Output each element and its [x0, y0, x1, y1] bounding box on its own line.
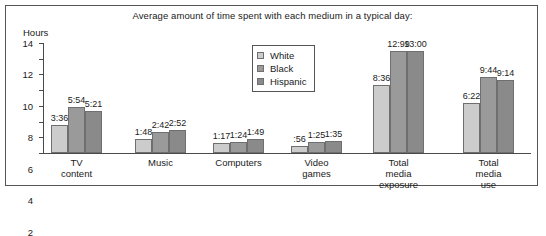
bar[interactable]	[463, 103, 480, 153]
bar-value-label: 3:36	[51, 114, 69, 123]
bar-value-label: 1:48	[135, 128, 153, 137]
legend-label: White	[270, 51, 294, 60]
legend-swatch-icon	[257, 78, 264, 85]
x-axis-category-label: Computers	[215, 157, 261, 168]
y-tick-label: 8	[28, 133, 33, 142]
legend-swatch-icon	[257, 65, 264, 72]
bar[interactable]	[291, 146, 308, 153]
x-axis-category-label: Music	[148, 157, 173, 168]
bar-value-label: 1:24	[230, 131, 248, 140]
bar[interactable]	[68, 107, 85, 153]
x-axis-category-label: TV content	[61, 157, 92, 179]
bar-value-label: 1:49	[247, 128, 265, 137]
y-tick-label: 10	[22, 102, 33, 111]
bar[interactable]	[373, 85, 390, 153]
x-axis-category-label: Total media use	[476, 157, 502, 190]
bar-group: 1:482:422:52Music	[135, 43, 186, 153]
y-tick: 8	[39, 90, 43, 91]
bar[interactable]	[169, 130, 186, 153]
bar-value-label: 1:35	[325, 130, 343, 139]
x-axis-line	[43, 153, 531, 154]
y-tick-label: 12	[22, 70, 33, 79]
bar[interactable]	[213, 143, 230, 153]
bar[interactable]	[230, 142, 247, 153]
bar[interactable]	[480, 77, 497, 153]
bar-value-label: 5:21	[85, 100, 103, 109]
bar-value-label: 2:42	[152, 121, 170, 130]
y-tick: 0	[39, 153, 43, 154]
chart-title: Average amount of time spent with each m…	[6, 10, 539, 21]
bar-value-label: 13:00	[404, 40, 427, 49]
y-tick-label: 14	[22, 39, 33, 48]
bar[interactable]	[85, 111, 102, 153]
bar[interactable]	[51, 125, 68, 153]
legend-item[interactable]: Hispanic	[257, 75, 306, 88]
bar-value-label: 2:52	[169, 119, 187, 128]
bar[interactable]	[497, 80, 514, 153]
y-tick: 14	[39, 43, 43, 44]
y-tick: 2	[39, 137, 43, 138]
bar[interactable]	[390, 51, 407, 153]
bar-group: 8:3612:9913:00Total media exposure	[373, 43, 424, 153]
bar-value-label: :56	[293, 135, 306, 144]
legend-item[interactable]: Black	[257, 62, 306, 75]
y-tick: 4	[39, 122, 43, 123]
y-tick: 6	[39, 106, 43, 107]
bar[interactable]	[308, 142, 325, 153]
bar-value-label: 9:44	[480, 66, 498, 75]
bar[interactable]	[325, 141, 342, 153]
bar-value-label: 6:22	[463, 92, 481, 101]
x-axis-category-label: Video games	[302, 157, 331, 179]
legend-label: Hispanic	[270, 77, 306, 86]
y-tick: 10	[39, 74, 43, 75]
bar-group: 3:365:545:21TV content	[51, 43, 102, 153]
legend-item[interactable]: White	[257, 49, 306, 62]
x-axis-category-label: Total media exposure	[379, 157, 418, 190]
y-tick-label: 6	[28, 165, 33, 174]
bar-group: 6:229:449:14Total media use	[463, 43, 514, 153]
bar[interactable]	[247, 139, 264, 153]
y-tick: 12	[39, 59, 43, 60]
bar[interactable]	[135, 139, 152, 153]
y-axis-line	[43, 43, 44, 153]
legend-label: Black	[270, 64, 293, 73]
bar-value-label: 8:36	[373, 74, 391, 83]
bar-value-label: 1:17	[213, 132, 231, 141]
y-axis-label: Hours	[23, 27, 48, 38]
chart-legend: WhiteBlackHispanic	[252, 45, 315, 92]
bar-value-label: 9:14	[497, 69, 515, 78]
bar[interactable]	[152, 132, 169, 153]
chart-frame: Average amount of time spent with each m…	[5, 5, 538, 186]
bar[interactable]	[407, 51, 424, 153]
bar-value-label: 1:25	[308, 131, 326, 140]
legend-swatch-icon	[257, 52, 264, 59]
bar-value-label: 5:54	[68, 96, 86, 105]
